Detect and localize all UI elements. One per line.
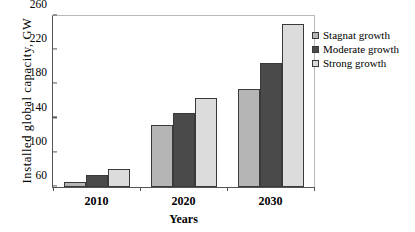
legend-label: Stagnat growth [323, 29, 390, 41]
y-tick-label: 180 [30, 66, 53, 78]
bar-chart-figure: Installed global capacity, GW 6010014018… [0, 0, 415, 232]
plot-area: 60100140180220260 201020202030 [52, 15, 315, 188]
x-tick-mark [227, 187, 228, 191]
legend-label: Strong growth [323, 57, 386, 69]
bar-group-2030 [227, 16, 314, 187]
bar[interactable] [238, 89, 260, 187]
y-tick-label: 100 [30, 135, 53, 147]
legend-item[interactable]: Moderate growth [312, 43, 399, 55]
x-tick-mark [314, 187, 315, 191]
y-tick-label: 60 [36, 169, 54, 181]
bar[interactable] [195, 98, 217, 187]
x-axis-title: Years [52, 212, 315, 227]
chart-legend: Stagnat growthModerate growthStrong grow… [312, 29, 399, 69]
bar[interactable] [108, 169, 130, 187]
x-tick-label: 2020 [172, 194, 196, 209]
bars-layer [53, 16, 314, 187]
legend-label: Moderate growth [323, 43, 399, 55]
legend-swatch-icon [312, 46, 319, 53]
x-tick-mark [140, 187, 141, 191]
bar-group-2010 [53, 16, 140, 187]
legend-item[interactable]: Strong growth [312, 57, 399, 69]
legend-swatch-icon [312, 60, 319, 67]
bar[interactable] [173, 113, 195, 187]
y-tick-label: 260 [30, 0, 53, 10]
x-tick-label: 2030 [259, 194, 283, 209]
legend-swatch-icon [312, 32, 319, 39]
legend-item[interactable]: Stagnat growth [312, 29, 399, 41]
bar[interactable] [64, 182, 86, 187]
bar-group-2020 [140, 16, 227, 187]
x-tick-mark [53, 187, 54, 191]
bar[interactable] [86, 175, 108, 187]
y-tick-label: 140 [30, 101, 53, 113]
bar[interactable] [260, 63, 282, 187]
x-tick-label: 2010 [85, 194, 109, 209]
bar[interactable] [282, 24, 304, 187]
bar[interactable] [151, 125, 173, 187]
y-tick-label: 220 [30, 32, 53, 44]
